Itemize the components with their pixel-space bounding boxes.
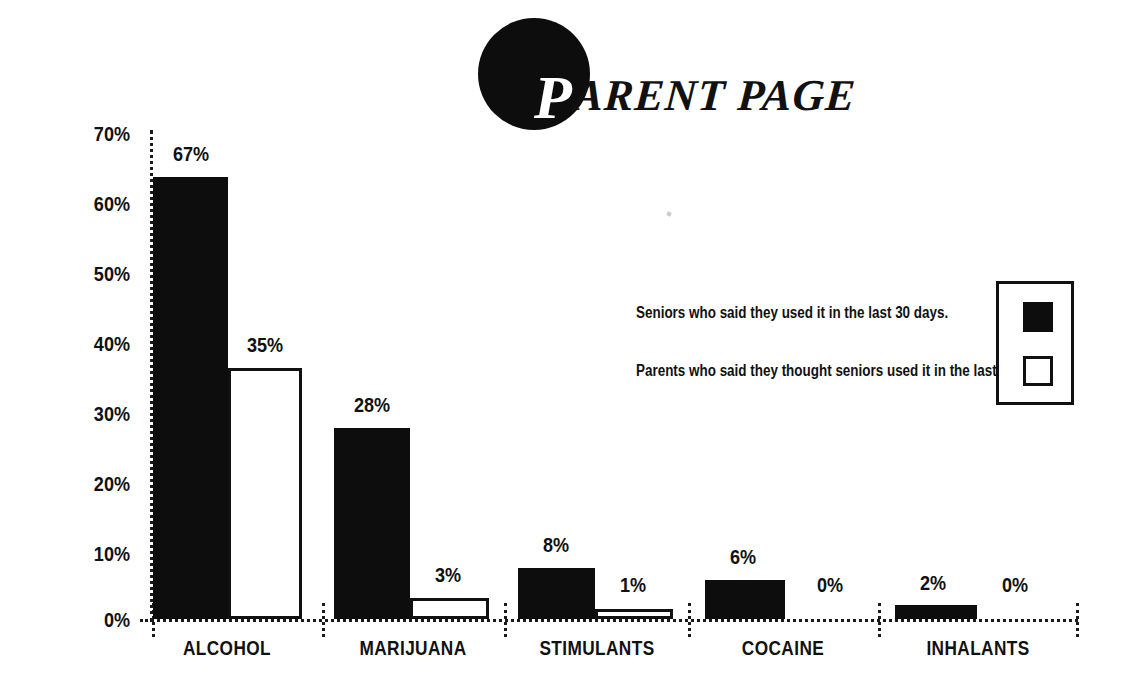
bar-parents-marijuana: [410, 598, 489, 619]
bar-value-seniors-alcohol: 67%: [157, 143, 226, 164]
y-tick-label-10: 10%: [56, 543, 130, 564]
x-axis-baseline: [140, 619, 1078, 622]
bar-parents-stimulants: [595, 609, 673, 619]
bar-value-parents-alcohol: 35%: [231, 334, 300, 355]
group-separator-2: [504, 603, 507, 637]
x-category-label-cocaine: COCAINE: [707, 637, 860, 659]
group-separator-1: [322, 603, 325, 637]
bar-chart: 70% 60% 50% 40% 30% 20% 10% 0% 67% 35% A…: [0, 0, 1123, 699]
legend-box: [996, 281, 1074, 405]
bar-value-parents-marijuana: 3%: [414, 564, 483, 585]
x-category-label-inhalants: INHALANTS: [898, 637, 1059, 659]
bar-value-seniors-cocaine: 6%: [709, 546, 778, 567]
bar-parents-alcohol: [228, 368, 302, 619]
bar-value-seniors-inhalants: 2%: [899, 572, 968, 593]
scan-artifact-speck: [666, 211, 671, 216]
legend-label-parents: Parents who said they thought seniors us…: [636, 362, 1053, 380]
y-tick-label-70: 70%: [56, 123, 130, 144]
x-category-label-alcohol: ALCOHOL: [153, 637, 301, 659]
bar-seniors-marijuana: [334, 428, 410, 619]
y-tick-label-60: 60%: [56, 193, 130, 214]
bar-value-parents-inhalants: 0%: [981, 574, 1050, 595]
y-tick-label-40: 40%: [56, 333, 130, 354]
group-separator-4: [878, 603, 881, 637]
bar-value-seniors-stimulants: 8%: [522, 534, 591, 555]
group-separator-5: [1076, 603, 1079, 637]
legend-swatch-parents: [1023, 356, 1053, 386]
y-tick-label-20: 20%: [56, 473, 130, 494]
x-category-label-marijuana: MARIJUANA: [338, 637, 487, 659]
bar-value-parents-stimulants: 1%: [599, 574, 668, 595]
legend-swatch-seniors: [1023, 302, 1053, 332]
bar-seniors-stimulants: [518, 568, 595, 619]
y-tick-label-0: 0%: [56, 609, 130, 630]
bar-value-parents-cocaine: 0%: [796, 574, 865, 595]
group-separator-3: [688, 603, 691, 637]
bar-seniors-cocaine: [705, 580, 785, 619]
bar-seniors-inhalants: [895, 605, 977, 619]
x-category-label-stimulants: STIMULANTS: [522, 637, 671, 659]
y-tick-label-50: 50%: [56, 263, 130, 284]
y-tick-label-30: 30%: [56, 403, 130, 424]
bar-value-seniors-marijuana: 28%: [338, 394, 407, 415]
legend-label-seniors: Seniors who said they used it in the las…: [636, 304, 948, 322]
bar-seniors-alcohol: [153, 177, 228, 619]
